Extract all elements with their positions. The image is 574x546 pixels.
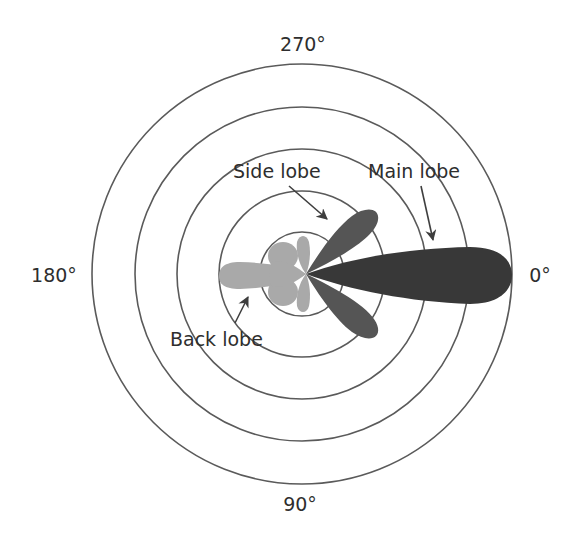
angle-label-270: 270°	[280, 33, 326, 55]
main-lobe-label: Main lobe	[368, 160, 460, 182]
angle-label-0: 0°	[529, 264, 551, 286]
main-lobe-arrow	[421, 186, 433, 240]
back-lobe	[219, 236, 310, 312]
angle-label-180: 180°	[31, 264, 77, 286]
radiation-pattern-diagram: Side lobe Main lobe Back lobe 270° 180° …	[0, 0, 574, 546]
angle-label-90: 90°	[283, 493, 317, 515]
back-lobe-arrow	[235, 297, 248, 323]
polar-plot: Side lobe Main lobe Back lobe 270° 180° …	[0, 0, 574, 546]
back-lobe-label: Back lobe	[170, 328, 263, 350]
side-lobe-label: Side lobe	[233, 160, 321, 182]
